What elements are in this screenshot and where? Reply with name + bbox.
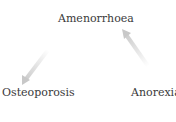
node-anorexia: Anorexia [131,86,176,99]
arrow-anorexia-to-amenorrhoea [122,29,148,66]
arrow-amenorrhoea-to-osteoporosis [22,50,48,85]
node-osteoporosis: Osteoporosis [2,86,75,99]
node-amenorrhoea: Amenorrhoea [58,12,134,25]
